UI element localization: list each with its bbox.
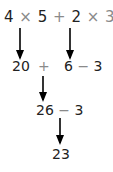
num: 3: [74, 102, 83, 118]
num: 2: [71, 8, 81, 26]
num: 20: [12, 58, 30, 74]
num: 6: [64, 58, 73, 74]
arrow-to-23: [56, 118, 64, 145]
expr2-left: 20: [12, 58, 30, 74]
minus-operator: −: [58, 102, 70, 118]
times-operator: ×: [87, 8, 100, 26]
num: 4: [4, 8, 14, 26]
expr2-right: 6 − 3: [64, 58, 102, 74]
num: 5: [38, 8, 48, 26]
expression-line-3: 26 − 3: [36, 102, 83, 118]
arrow-2x3-to-6: [66, 28, 74, 60]
num: 26: [36, 102, 54, 118]
arrow-sum-to-26: [39, 76, 47, 102]
result: 23: [52, 146, 70, 162]
expression-line-1: 4 × 5 + 2 × 3 − 3: [4, 9, 113, 25]
times-operator: ×: [19, 8, 32, 26]
arrow-4x5-to-20: [16, 28, 24, 60]
minus-operator: −: [77, 58, 89, 74]
plus-operator: +: [38, 58, 50, 74]
plus-operator: +: [53, 8, 66, 26]
num: 3: [94, 58, 103, 74]
num: 3: [105, 8, 113, 26]
